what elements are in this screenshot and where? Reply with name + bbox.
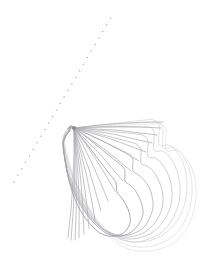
- guide-dot-26: [110, 18, 112, 20]
- guide-dot-4: [25, 162, 27, 164]
- contour-convergence-point: [72, 126, 76, 130]
- guide-dot-11: [52, 116, 54, 118]
- guide-dot-6: [33, 149, 35, 151]
- guide-dot-5: [29, 155, 31, 157]
- guide-dot-12: [56, 109, 58, 111]
- guide-dot-13: [60, 103, 62, 105]
- focus-point-group: [72, 126, 76, 130]
- guide-dot-25: [106, 24, 108, 26]
- guide-dot-24: [102, 31, 104, 33]
- guide-dot-9: [44, 129, 46, 131]
- contour-plot-canvas: [0, 0, 207, 271]
- contour-figure-root: Contour Field Plot: [0, 0, 207, 271]
- plot-background: [0, 0, 207, 271]
- guide-dot-23: [98, 37, 100, 39]
- guide-dot-14: [63, 96, 65, 98]
- guide-dot-21: [90, 50, 92, 52]
- guide-dot-19: [83, 63, 85, 65]
- guide-dot-10: [48, 122, 50, 124]
- guide-dot-16: [71, 83, 73, 85]
- guide-dot-22: [94, 44, 96, 46]
- guide-dot-1: [13, 181, 15, 183]
- guide-dot-3: [21, 168, 23, 170]
- guide-dot-17: [75, 76, 77, 78]
- guide-dot-2: [17, 175, 19, 177]
- guide-dot-20: [87, 57, 89, 59]
- guide-dot-15: [67, 90, 69, 92]
- guide-dot-8: [40, 135, 42, 137]
- guide-dot-7: [36, 142, 38, 144]
- guide-dot-18: [79, 70, 81, 72]
